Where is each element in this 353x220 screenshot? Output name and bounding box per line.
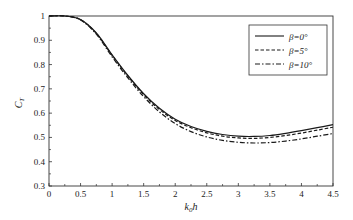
y-axis-label-sub: T (18, 97, 26, 102)
x-tick-label: 3.5 (264, 189, 276, 199)
y-tick-label: 0.6 (34, 108, 46, 118)
x-tick-label: 2.5 (201, 189, 213, 199)
y-tick-label: 0.8 (34, 60, 46, 70)
x-axis-label: k0h (185, 201, 198, 214)
y-tick-label: 0.7 (34, 84, 46, 94)
legend-label: β=5° (288, 46, 308, 56)
line-chart: 00.511.522.533.544.5 0.30.40.50.60.70.80… (0, 0, 353, 220)
legend-label: β=0° (288, 32, 308, 42)
y-tick-label: 0.5 (34, 132, 46, 142)
x-tick-label: 0 (47, 189, 52, 199)
x-tick-label: 1 (110, 189, 115, 199)
y-tick-label: 0.4 (34, 157, 46, 167)
y-tick-label: 0.3 (34, 181, 46, 191)
y-tick-label: 1 (41, 11, 46, 21)
x-tick-label: 0.5 (75, 189, 87, 199)
y-axis-label: CT (13, 97, 26, 109)
x-tick-label: 1.5 (138, 189, 150, 199)
x-tick-label: 2 (173, 189, 178, 199)
x-axis-label-tail: h (192, 201, 197, 212)
x-axis-ticks: 00.511.522.533.544.5 (47, 183, 339, 199)
legend-label: β=10° (288, 60, 313, 70)
x-tick-label: 4 (299, 189, 304, 199)
x-tick-label: 4.5 (327, 189, 339, 199)
y-tick-label: 0.9 (34, 35, 46, 45)
legend: β=0° β=5° β=10° (249, 25, 327, 75)
x-tick-label: 3 (236, 189, 241, 199)
